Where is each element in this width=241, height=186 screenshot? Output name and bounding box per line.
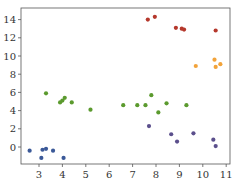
data-point	[156, 110, 160, 114]
data-point	[212, 58, 216, 62]
y-tick-label: 6	[10, 87, 16, 98]
data-point	[121, 103, 125, 107]
data-point	[214, 65, 218, 69]
data-point	[63, 96, 67, 100]
data-point	[70, 100, 74, 104]
data-point	[175, 139, 179, 143]
data-point	[61, 156, 65, 160]
data-point	[211, 138, 215, 142]
data-point	[194, 64, 198, 68]
data-point	[143, 103, 147, 107]
data-point	[191, 131, 195, 135]
data-point	[40, 148, 44, 152]
data-point	[44, 147, 48, 151]
data-point	[214, 28, 218, 32]
data-point	[88, 108, 92, 112]
y-tick-label: 2	[10, 123, 16, 134]
data-point	[39, 156, 43, 160]
x-tick-label: 11	[220, 169, 233, 180]
x-axis: 34567891011	[36, 164, 233, 180]
y-tick-label: 8	[10, 69, 16, 80]
data-point	[146, 18, 150, 22]
x-tick-label: 8	[153, 169, 159, 180]
y-tick-label: 12	[3, 32, 16, 43]
data-point	[184, 103, 188, 107]
y-tick-label: 10	[3, 51, 16, 62]
x-tick-label: 3	[36, 169, 42, 180]
x-tick-label: 5	[83, 169, 89, 180]
data-point	[135, 103, 139, 107]
data-point	[44, 91, 48, 95]
data-point	[182, 28, 186, 32]
scatter-chart: 34567891011 02468101214	[0, 0, 241, 186]
data-point	[164, 101, 168, 105]
x-tick-label: 9	[176, 169, 182, 180]
x-tick-label: 4	[59, 169, 65, 180]
x-tick-label: 6	[106, 169, 112, 180]
data-point	[149, 93, 153, 97]
data-point	[218, 62, 222, 66]
y-axis: 02468101214	[3, 14, 21, 152]
y-tick-label: 4	[10, 105, 16, 116]
data-point	[28, 149, 32, 153]
x-tick-label: 10	[196, 169, 209, 180]
data-point	[51, 149, 55, 153]
data-point	[174, 26, 178, 30]
plot-frame	[21, 8, 230, 164]
data-point	[153, 15, 157, 19]
data-point	[169, 132, 173, 136]
x-tick-label: 7	[129, 169, 135, 180]
data-point	[214, 144, 218, 148]
y-tick-label: 0	[10, 142, 16, 153]
data-point	[147, 124, 151, 128]
y-tick-label: 14	[3, 14, 16, 25]
